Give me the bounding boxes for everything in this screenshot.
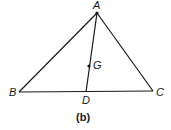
label-a: A	[92, 0, 100, 11]
triangle-diagram: A B C D G (b)	[0, 0, 171, 130]
centroid-g-dot	[87, 64, 90, 67]
segment-ab	[19, 13, 97, 92]
figure-caption: (b)	[76, 111, 90, 123]
label-c: C	[156, 86, 164, 98]
label-g: G	[93, 59, 102, 71]
vertex-a-dot	[95, 11, 98, 14]
label-d: D	[82, 94, 90, 106]
segment-ac	[97, 13, 153, 91]
label-b: B	[9, 86, 16, 98]
median-ad	[86, 13, 97, 92]
